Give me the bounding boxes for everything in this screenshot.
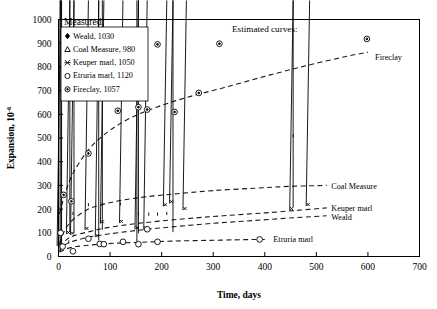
- y-tick-label: 900: [37, 39, 52, 49]
- y-tick-label: 0: [47, 252, 52, 262]
- curve-label-coal-measure: Coal Measure: [331, 182, 377, 191]
- y-tick-label: 700: [37, 86, 52, 96]
- y-tick-label: 400: [37, 157, 52, 167]
- data-point: [172, 109, 178, 115]
- data-point: [144, 107, 150, 113]
- data-point: [136, 241, 142, 247]
- estimated-curves-note: Estimated curves:: [232, 24, 298, 34]
- y-axis-title-exponent: -6: [5, 106, 12, 112]
- y-axis-title-group: Expansion, 10-6: [5, 106, 16, 169]
- y-tick-label: 800: [37, 62, 52, 72]
- legend-item-label: Coal Measure, 980: [73, 45, 135, 54]
- data-point: [115, 108, 121, 114]
- x-tick-label: 200: [155, 262, 170, 272]
- x-tick-label: 400: [258, 262, 273, 272]
- data-point: [217, 41, 223, 47]
- data-point: [257, 237, 263, 243]
- y-tick-label: 1000: [33, 15, 52, 25]
- data-point: [86, 151, 92, 157]
- legend-item-label: Keuper marl, 1050: [73, 58, 135, 67]
- data-point: [120, 239, 126, 245]
- data-point: [196, 90, 202, 96]
- legend-item-label: Etruria marl, 1120: [73, 71, 133, 80]
- data-point: [155, 239, 161, 245]
- expansion-vs-time-chart: 0100200300400500600700 01002003004005006…: [0, 0, 437, 309]
- data-point: [144, 226, 150, 232]
- legend-item-label: Fireclay, 1057: [73, 85, 120, 94]
- curve-label-fireclay: Fireclay: [375, 53, 403, 62]
- data-point: [70, 248, 76, 254]
- curve-label-etruria-marl: Etruria marl: [273, 235, 314, 244]
- data-point: [60, 244, 66, 250]
- chart-container: 0100200300400500600700 01002003004005006…: [0, 0, 437, 309]
- data-point: [101, 241, 107, 247]
- x-tick-label: 500: [309, 262, 324, 272]
- y-tick-label: 500: [37, 133, 52, 143]
- legend-marker-dotted-circle: [65, 87, 70, 92]
- y-tick-label: 200: [37, 205, 52, 215]
- data-point: [69, 198, 75, 204]
- data-point: [364, 36, 370, 42]
- data-point: [136, 104, 142, 110]
- legend-title: Measured:: [64, 17, 104, 27]
- data-point: [58, 230, 64, 236]
- y-tick-label: 300: [37, 181, 52, 191]
- legend: Measured: Weald, 1030Coal Measure, 980Ke…: [61, 17, 148, 101]
- data-point: [61, 192, 67, 198]
- x-tick-label: 300: [206, 262, 221, 272]
- data-point: [86, 236, 92, 242]
- y-axis-title: Expansion, 10-6: [5, 106, 16, 169]
- legend-item-label: Weald, 1030: [73, 32, 114, 41]
- curve-label-weald: Weald: [331, 213, 352, 222]
- x-tick-label: 600: [361, 262, 376, 272]
- curve-label-keuper-marl: Keuper marl: [331, 204, 373, 213]
- legend-marker-open-circle: [65, 73, 70, 78]
- y-axis-title-main: Expansion, 10: [6, 112, 16, 169]
- data-point: [155, 42, 161, 48]
- y-tick-label: 600: [37, 110, 52, 120]
- x-tick-label: 0: [56, 262, 61, 272]
- x-axis-title: Time, days: [217, 290, 261, 300]
- x-tick-label: 700: [412, 262, 427, 272]
- x-tick-label: 100: [103, 262, 118, 272]
- y-tick-label: 100: [37, 228, 52, 238]
